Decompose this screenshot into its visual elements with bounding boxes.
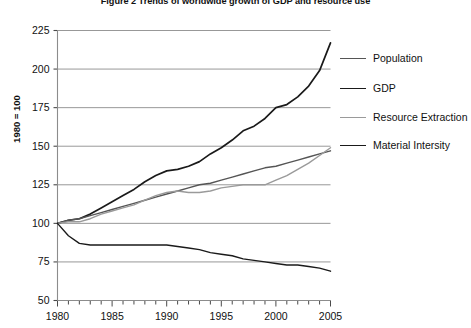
legend-item: Population	[340, 51, 423, 65]
legend-item: Material Intersity	[340, 138, 450, 152]
legend-label: Resource Extraction	[373, 111, 468, 123]
x-tick-label: 1985	[92, 310, 132, 322]
x-tick-label: 1995	[201, 310, 241, 322]
y-tick-label: 225	[20, 24, 50, 36]
plot-area: 1980 = 100 2252001751501251007550 198019…	[0, 0, 471, 328]
data-series-group	[58, 43, 331, 271]
axis-lines	[58, 31, 331, 301]
y-tick-label: 150	[20, 140, 50, 152]
legend-swatch-line	[340, 145, 366, 146]
legend-item: Resource Extraction	[340, 110, 468, 124]
y-tick-label: 175	[20, 101, 50, 113]
y-tick-label: 100	[20, 217, 50, 229]
y-tick-label: 200	[20, 63, 50, 75]
y-tick-label: 50	[20, 294, 50, 306]
chart-canvas	[0, 0, 471, 328]
legend-swatch-line	[340, 58, 366, 59]
y-tick-label: 75	[20, 255, 50, 267]
x-tick-label: 2005	[311, 310, 351, 322]
series-line-material-intersity	[58, 223, 331, 271]
legend-item: GDP	[340, 81, 396, 95]
legend-label: Population	[373, 52, 423, 64]
series-line-resource-extraction	[58, 148, 331, 224]
legend-swatch-line	[340, 88, 366, 89]
legend-swatch-line	[340, 117, 366, 118]
legend-label: Material Intersity	[373, 139, 450, 151]
series-line-population	[58, 151, 331, 224]
x-tick-label: 1990	[147, 310, 187, 322]
series-line-gdp	[58, 43, 331, 224]
x-tick-label: 1980	[38, 310, 78, 322]
x-tick-label: 2000	[256, 310, 296, 322]
legend-label: GDP	[373, 82, 396, 94]
y-tick-label: 125	[20, 178, 50, 190]
gridlines	[58, 31, 331, 301]
figure-container: Figure 2 Trends of worldwide growth of G…	[0, 0, 471, 328]
